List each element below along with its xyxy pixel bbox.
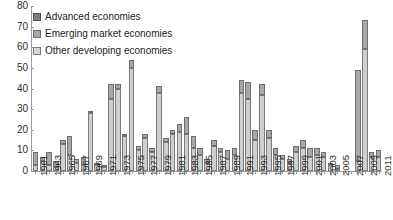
x-axis-tick-label: 1967 xyxy=(81,155,91,176)
y-axis-tick-label: 30 xyxy=(2,104,28,114)
x-axis-tick xyxy=(214,171,215,174)
x-axis-tick xyxy=(193,171,194,174)
x-axis-tick xyxy=(310,171,311,174)
x-axis-tick xyxy=(70,171,71,174)
legend-item-advanced: Advanced economies xyxy=(33,9,172,24)
bar-segment-eme xyxy=(184,117,189,134)
x-axis-tick-label: 2005 xyxy=(341,155,351,176)
x-axis-tick-label: 1981 xyxy=(177,155,187,176)
bar-segment-eme xyxy=(177,124,182,132)
bar-segment-eme xyxy=(239,80,244,92)
bar-segment-eme xyxy=(149,148,154,152)
y-axis-tick-label: 80 xyxy=(2,1,28,11)
x-axis-tick xyxy=(331,171,332,174)
x-axis-tick xyxy=(234,171,235,174)
bar-segment-eme xyxy=(266,130,271,138)
bar-segment-eme xyxy=(142,134,147,138)
y-axis-tick-label: 20 xyxy=(2,125,28,135)
x-axis-tick xyxy=(379,171,380,174)
bar-segment-eme xyxy=(122,134,127,136)
legend-item-emerging: Emerging market economies xyxy=(33,26,172,41)
x-axis-tick xyxy=(132,171,133,174)
bar-segment-eme xyxy=(191,136,196,148)
x-axis-tick-label: 2001 xyxy=(314,155,324,176)
x-axis-tick xyxy=(118,171,119,174)
x-axis-tick xyxy=(104,171,105,174)
x-axis-tick xyxy=(372,171,373,174)
x-axis-tick xyxy=(344,171,345,174)
legend-item-other-developing: Other developing economies xyxy=(33,43,172,58)
bar-segment-eme xyxy=(88,111,93,113)
x-axis-tick xyxy=(221,171,222,174)
x-axis-tick xyxy=(228,171,229,174)
x-axis-tick xyxy=(351,171,352,174)
bar-segment-eme xyxy=(156,86,161,92)
legend-label-other-developing: Other developing economies xyxy=(45,46,172,56)
bar-segment-eme xyxy=(197,148,202,154)
x-axis-tick-label: 1971 xyxy=(108,155,118,176)
bar-segment-eme xyxy=(170,130,175,134)
y-axis-label-wrap: 50 xyxy=(0,63,28,73)
x-axis-tick xyxy=(200,171,201,174)
x-axis-tick xyxy=(324,171,325,174)
bar-segment-eme xyxy=(60,140,65,144)
x-axis-tick xyxy=(255,171,256,174)
x-axis-tick xyxy=(269,171,270,174)
chart-legend: Advanced economies Emerging market econo… xyxy=(33,9,172,60)
x-axis-tick xyxy=(282,171,283,174)
x-axis-tick xyxy=(145,171,146,174)
x-axis-tick xyxy=(173,171,174,174)
bar-segment-eme xyxy=(108,84,113,98)
bar-segment-eme xyxy=(300,140,305,148)
x-axis-tick-label: 1979 xyxy=(163,155,173,176)
x-axis-tick-label: 1983 xyxy=(190,155,200,176)
x-axis-tick xyxy=(83,171,84,174)
y-axis-label-wrap: 30 xyxy=(0,104,28,114)
bar-segment-eme xyxy=(245,82,250,99)
bar-segment-eme xyxy=(362,20,367,49)
y-axis-tick-label: 70 xyxy=(2,22,28,32)
bar-segment-eme xyxy=(252,130,257,140)
y-axis-label-wrap: 70 xyxy=(0,22,28,32)
y-axis-label-wrap: 10 xyxy=(0,145,28,155)
bar-segment-eme xyxy=(211,140,216,146)
x-axis-tick xyxy=(111,171,112,174)
x-axis-tick xyxy=(337,171,338,174)
bar-segment-oth xyxy=(362,49,367,171)
x-axis-tick-label: 2003 xyxy=(328,155,338,176)
x-axis-tick-label: 1963 xyxy=(53,155,63,176)
x-axis-tick xyxy=(303,171,304,174)
bar-segment-eme xyxy=(314,148,319,154)
bar-segment-eme xyxy=(232,148,237,154)
y-axis-tick-label: 40 xyxy=(2,84,28,94)
x-axis-tick-label: 1975 xyxy=(136,155,146,176)
x-axis-tick xyxy=(77,171,78,174)
clipped-chart-title xyxy=(60,0,380,3)
x-axis-tick xyxy=(296,171,297,174)
x-axis-tick xyxy=(56,171,57,174)
x-axis-tick xyxy=(49,171,50,174)
legend-swatch-advanced-icon xyxy=(33,13,41,21)
y-axis-tick-label: 0 xyxy=(2,166,28,176)
x-axis-tick xyxy=(152,171,153,174)
x-axis-tick-label: 2011 xyxy=(383,156,393,176)
y-axis-tick-label: 10 xyxy=(2,145,28,155)
bar-segment-eme xyxy=(67,136,72,155)
legend-swatch-emerging-icon xyxy=(33,30,41,38)
bar-segment-eme xyxy=(115,84,120,88)
bar-segment-eme xyxy=(273,148,278,154)
x-axis-tick xyxy=(42,171,43,174)
x-axis-tick-label: 1977 xyxy=(149,155,159,176)
bar-segment-eme xyxy=(163,138,168,142)
x-axis-tick xyxy=(276,171,277,174)
bar-segment-eme xyxy=(136,146,141,150)
x-axis-tick xyxy=(365,171,366,174)
bar-segment-eme xyxy=(293,146,298,152)
x-axis-tick-label: 1973 xyxy=(122,155,132,176)
x-axis-tick xyxy=(97,171,98,174)
x-axis-tick-label: 1993 xyxy=(259,155,269,176)
x-axis-tick xyxy=(138,171,139,174)
x-axis-tick xyxy=(241,171,242,174)
legend-label-advanced: Advanced economies xyxy=(45,12,141,22)
